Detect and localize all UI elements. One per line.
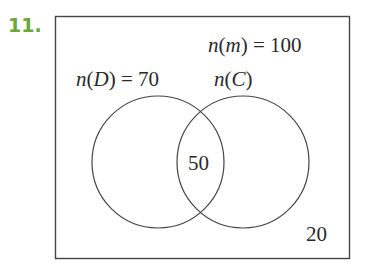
intersection-value: 50: [188, 151, 209, 176]
outside-value: 20: [306, 222, 327, 247]
set-d-label: n(D) = 70: [76, 67, 159, 92]
set-c-label: n(C): [214, 67, 253, 92]
universe-label: n(m) = 100: [208, 33, 302, 58]
